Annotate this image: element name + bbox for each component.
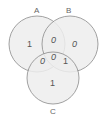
region-abc: 0	[51, 52, 56, 62]
label-c: C	[50, 107, 56, 116]
label-a: A	[34, 6, 40, 15]
region-b-only: 0	[72, 39, 77, 49]
region-ac-only: 0	[40, 56, 45, 66]
region-c-only: 1	[50, 78, 55, 88]
venn-diagram: A B C 1 0 0 0 0 1 1	[0, 0, 103, 123]
region-a-only: 1	[27, 39, 32, 49]
region-ab-only: 0	[51, 35, 56, 45]
region-bc-only: 1	[63, 56, 68, 66]
label-b: B	[66, 6, 71, 15]
